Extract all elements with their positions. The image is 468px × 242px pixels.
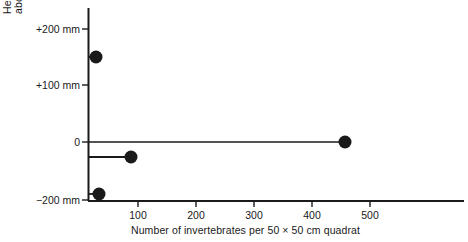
chart-figure: Height of ground surface above/below wat… <box>0 0 468 242</box>
plot-area <box>0 0 468 242</box>
data-point-3 <box>125 151 138 164</box>
data-point-2 <box>339 136 352 149</box>
data-point-4 <box>93 188 106 201</box>
data-point-1 <box>90 51 103 64</box>
